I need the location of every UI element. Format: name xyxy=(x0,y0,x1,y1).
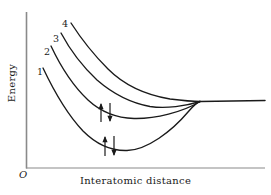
asymptote-line xyxy=(200,101,265,102)
curve-label-1: 1 xyxy=(37,67,43,77)
spin-down-arrow-lower xyxy=(111,136,116,156)
spin-up-arrow-upper xyxy=(98,103,103,122)
y-axis-label: Energy xyxy=(7,59,17,107)
spin-pair-lower xyxy=(102,136,116,156)
plot-canvas xyxy=(0,0,271,195)
curve-label-2: 2 xyxy=(44,47,50,57)
potential-energy-curve-figure: 1 2 3 4 O Interatomic distance Energy xyxy=(0,0,271,195)
curve-label-4: 4 xyxy=(62,19,68,29)
curve-4 xyxy=(71,23,200,102)
curve-3 xyxy=(61,33,200,107)
x-axis-label: Interatomic distance xyxy=(0,176,271,186)
curve-label-3: 3 xyxy=(53,34,59,44)
